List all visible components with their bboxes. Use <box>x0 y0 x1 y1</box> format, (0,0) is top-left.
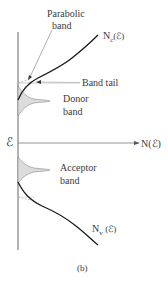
parabolic-label-line1: Parabolic <box>47 8 85 19</box>
nc-curve <box>18 35 98 100</box>
parabolic-pointer <box>30 30 52 77</box>
acceptor-band-shape <box>18 157 50 183</box>
band-tail-pointer <box>41 82 80 83</box>
n-axis-label: N(ℰ) <box>141 138 161 149</box>
arrow-left-icon <box>36 80 41 84</box>
nv-curve <box>18 182 98 245</box>
parabolic-label-line2: band <box>52 20 71 31</box>
band-tail-label: Band tail <box>82 77 118 88</box>
energy-axis-label: ℰ <box>6 137 13 148</box>
acceptor-label-line1: Acceptor <box>60 162 97 173</box>
nv-label: Nv (ℰ) <box>92 223 116 239</box>
donor-label-line2: band <box>63 106 82 117</box>
figure-caption: (b) <box>77 263 88 274</box>
donor-label-line1: Donor <box>63 93 89 104</box>
nc-label: Nc(ℰ) <box>103 30 124 46</box>
arrow-icon <box>28 75 32 80</box>
arrow-right-icon <box>134 141 140 145</box>
acceptor-label-line2: band <box>60 175 79 186</box>
